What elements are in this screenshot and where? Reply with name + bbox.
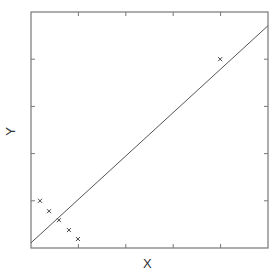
fit-line: [31, 26, 268, 243]
scatter-plot: [0, 0, 280, 276]
data-point-x-marker: [67, 228, 71, 232]
data-points: [38, 57, 222, 241]
data-point-x-marker: [38, 199, 42, 203]
data-point-x-marker: [57, 218, 61, 222]
axis-ticks: [31, 12, 268, 248]
data-point-x-marker: [76, 237, 80, 241]
axes-frame: [31, 12, 268, 248]
x-axis-label: X: [143, 256, 152, 271]
data-point-x-marker: [47, 209, 51, 213]
data-point-x-marker: [218, 57, 222, 61]
y-axis-label: Y: [3, 127, 18, 136]
